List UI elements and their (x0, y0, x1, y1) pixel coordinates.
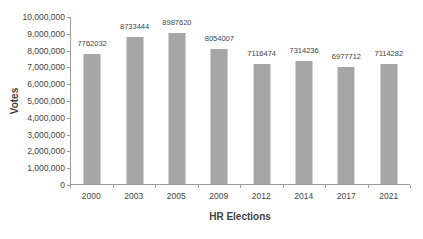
x-tick-mark (410, 185, 411, 188)
bar-data-label: 8733444 (120, 22, 149, 31)
y-tick-label: 8,000,000 (27, 46, 65, 56)
y-tick-label: 4,000,000 (27, 113, 65, 123)
x-tick-mark (70, 185, 71, 188)
x-tick-label: 2000 (70, 191, 113, 203)
y-tick-mark (67, 67, 70, 68)
x-tick-mark (198, 185, 199, 188)
bar-data-label: 7314236 (289, 46, 318, 55)
x-axis-title: HR Elections (209, 211, 271, 222)
plot-area: 7762032873344489876208054007711647473142… (70, 17, 410, 185)
bar-data-label: 7114282 (374, 49, 403, 58)
bar-data-label: 8987620 (162, 18, 191, 27)
x-tick-mark (325, 185, 326, 188)
y-tick-label: 6,000,000 (27, 79, 65, 89)
x-tick-label: 2021 (368, 191, 411, 203)
bar-slot: 7762032 (71, 17, 113, 184)
y-tick-label: 5,000,000 (27, 96, 65, 106)
bar-chart: Votes 01,000,0002,000,0003,000,0004,000,… (0, 0, 423, 239)
bar (253, 64, 270, 184)
bar (296, 61, 313, 184)
y-tick-label: 3,000,000 (27, 130, 65, 140)
bar-data-label: 7762032 (78, 39, 107, 48)
x-tick-mark (240, 185, 241, 188)
y-tick-mark (67, 51, 70, 52)
y-tick-mark (67, 17, 70, 18)
y-tick-mark (67, 118, 70, 119)
bar (84, 54, 101, 184)
bar-slot: 7314236 (283, 17, 325, 184)
bar-slot: 8054007 (198, 17, 240, 184)
y-tick-label: 10,000,000 (22, 12, 65, 22)
x-tick-mark (113, 185, 114, 188)
x-tick-label: 2012 (240, 191, 283, 203)
x-axis-tick-labels: 20002003200520092012201420172021 (70, 191, 410, 203)
bar (168, 33, 185, 184)
x-tick-mark (283, 185, 284, 188)
x-tick-label: 2017 (325, 191, 368, 203)
y-tick-mark (67, 84, 70, 85)
bar (126, 37, 143, 184)
x-tick-mark (155, 185, 156, 188)
bar-slot: 8987620 (156, 17, 198, 184)
bar (380, 64, 397, 184)
y-axis-tick-labels: 01,000,0002,000,0003,000,0004,000,0005,0… (0, 17, 65, 185)
x-tick-label: 2005 (155, 191, 198, 203)
y-tick-label: 9,000,000 (27, 29, 65, 39)
bar-slot: 8733444 (113, 17, 155, 184)
bar-slot: 7114282 (368, 17, 410, 184)
bar-data-label: 8054007 (205, 34, 234, 43)
bar-data-label: 6977712 (332, 52, 361, 61)
y-tick-mark (67, 151, 70, 152)
y-tick-label: 0 (60, 180, 65, 190)
bar-data-label: 7116474 (247, 49, 276, 58)
bar (211, 49, 228, 184)
y-tick-label: 7,000,000 (27, 62, 65, 72)
y-tick-label: 2,000,000 (27, 146, 65, 156)
x-tick-label: 2003 (113, 191, 156, 203)
y-tick-mark (67, 34, 70, 35)
bar-slot: 6977712 (325, 17, 367, 184)
x-tick-mark (368, 185, 369, 188)
y-tick-mark (67, 135, 70, 136)
x-tick-label: 2014 (283, 191, 326, 203)
y-tick-mark (67, 168, 70, 169)
y-tick-mark (67, 101, 70, 102)
x-tick-label: 2009 (198, 191, 241, 203)
bar (338, 67, 355, 184)
y-tick-label: 1,000,000 (27, 163, 65, 173)
bar-slot: 7116474 (241, 17, 283, 184)
